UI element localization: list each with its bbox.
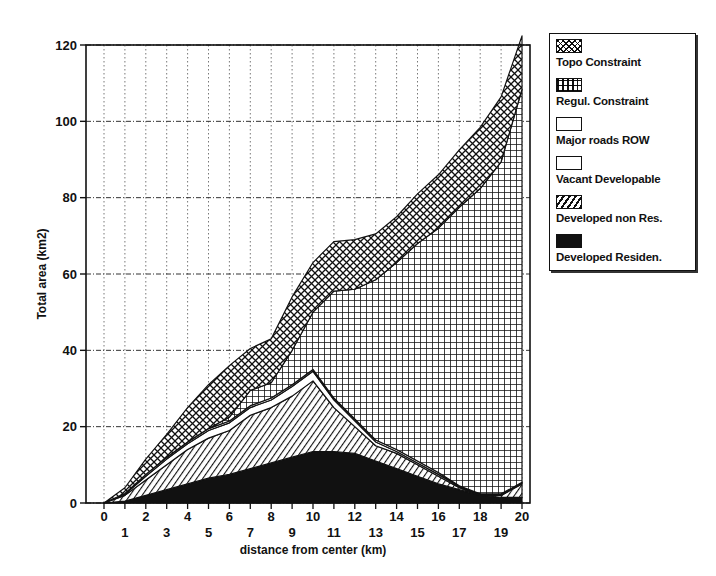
y-tick-label: 40 xyxy=(63,343,77,358)
x-tick-label: 16 xyxy=(431,509,445,524)
y-tick-label: 100 xyxy=(55,114,77,129)
cross-hatch-swatch-icon xyxy=(556,39,582,53)
x-axis-title: distance from center (km) xyxy=(240,543,387,557)
x-tick-label: 18 xyxy=(473,509,487,524)
legend-item-vacant: Vacant Developable xyxy=(556,156,660,185)
x-tick-label: 4 xyxy=(184,509,192,524)
x-axis-ticks: 02468101214161820135791113151719 xyxy=(100,503,529,540)
x-tick-label: 13 xyxy=(368,525,382,540)
x-tick-label: 12 xyxy=(348,509,362,524)
grid-swatch-icon xyxy=(556,78,582,92)
x-tick-label: 14 xyxy=(389,509,404,524)
legend-item-nonres: Developed non Res. xyxy=(556,195,662,224)
legend-item-regul: Regul. Constraint xyxy=(556,78,648,107)
y-tick-label: 120 xyxy=(55,38,77,53)
x-tick-label: 0 xyxy=(100,509,107,524)
y-tick-label: 0 xyxy=(70,496,77,511)
x-tick-label: 5 xyxy=(205,525,212,540)
white-swatch-icon xyxy=(556,117,582,131)
x-tick-label: 15 xyxy=(410,525,424,540)
diagonal-hatch-swatch-icon xyxy=(556,195,582,209)
x-tick-label: 17 xyxy=(452,525,466,540)
x-tick-label: 2 xyxy=(142,509,149,524)
y-axis-title: Total area (km2) xyxy=(35,228,49,319)
x-tick-label: 11 xyxy=(327,525,341,540)
legend-item-residential: Developed Residen. xyxy=(556,234,662,263)
legend: Topo Constraint Regul. Constraint Major … xyxy=(549,33,696,271)
x-tick-label: 19 xyxy=(494,525,508,540)
y-tick-label: 20 xyxy=(63,419,77,434)
x-tick-label: 10 xyxy=(306,509,320,524)
legend-item-roads: Major roads ROW xyxy=(556,117,649,146)
x-tick-label: 9 xyxy=(288,525,295,540)
solid-black-swatch-icon xyxy=(556,234,582,248)
legend-item-topo: Topo Constraint xyxy=(556,39,641,68)
x-tick-label: 1 xyxy=(121,525,128,540)
y-tick-label: 80 xyxy=(63,190,77,205)
x-tick-label: 6 xyxy=(226,509,233,524)
x-tick-label: 7 xyxy=(247,525,254,540)
x-tick-label: 3 xyxy=(163,525,170,540)
x-tick-label: 20 xyxy=(515,509,529,524)
x-tick-label: 8 xyxy=(268,509,275,524)
white-swatch-icon xyxy=(556,156,582,170)
y-axis-ticks: 020406080100120 xyxy=(55,38,86,511)
y-tick-label: 60 xyxy=(63,267,77,282)
